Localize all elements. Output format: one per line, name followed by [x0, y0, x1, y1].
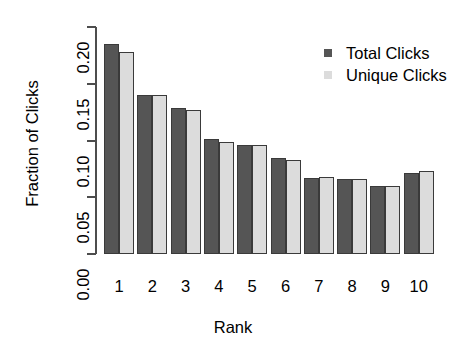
- legend-label: Unique Clicks: [346, 66, 447, 85]
- bar-total-rank-8: [337, 179, 352, 254]
- bar-unique-rank-5: [252, 145, 267, 254]
- bar-unique-rank-4: [219, 142, 234, 254]
- bar-total-rank-5: [237, 145, 252, 254]
- bar-total-rank-4: [204, 139, 219, 254]
- y-tick-label: 0.05: [74, 198, 93, 258]
- y-tick-label: 0.10: [74, 141, 93, 201]
- legend-item-2: Unique Clicks: [324, 64, 447, 86]
- x-axis-title: Rank: [0, 318, 466, 337]
- legend-swatch-total: [324, 49, 332, 57]
- chart-legend: Total ClicksUnique Clicks: [324, 42, 447, 86]
- bar-total-rank-10: [404, 173, 419, 254]
- bar-unique-rank-7: [319, 177, 334, 254]
- bar-total-rank-6: [271, 158, 286, 254]
- bar-unique-rank-10: [419, 171, 434, 254]
- bar-total-rank-3: [171, 108, 186, 254]
- bar-unique-rank-6: [286, 160, 301, 254]
- bar-unique-rank-2: [152, 95, 167, 254]
- y-tick-label: 0.20: [74, 28, 93, 88]
- bar-total-rank-7: [304, 178, 319, 254]
- bar-unique-rank-1: [119, 52, 134, 254]
- bar-total-rank-1: [104, 44, 119, 254]
- bar-chart: Fraction of Clicks Rank 0.000.050.100.15…: [0, 0, 466, 349]
- bar-unique-rank-9: [385, 186, 400, 254]
- legend-swatch-unique: [324, 71, 332, 79]
- bar-total-rank-2: [137, 95, 152, 254]
- y-axis-title: Fraction of Clicks: [23, 34, 42, 254]
- bar-unique-rank-8: [352, 179, 367, 254]
- bar-total-rank-9: [370, 186, 385, 254]
- bar-unique-rank-3: [186, 110, 201, 254]
- legend-item-1: Total Clicks: [324, 42, 447, 64]
- x-tick-label: 10: [399, 277, 439, 296]
- y-tick-label: 0.15: [74, 84, 93, 144]
- y-tick-label: 0.00: [74, 255, 93, 315]
- legend-label: Total Clicks: [346, 44, 429, 63]
